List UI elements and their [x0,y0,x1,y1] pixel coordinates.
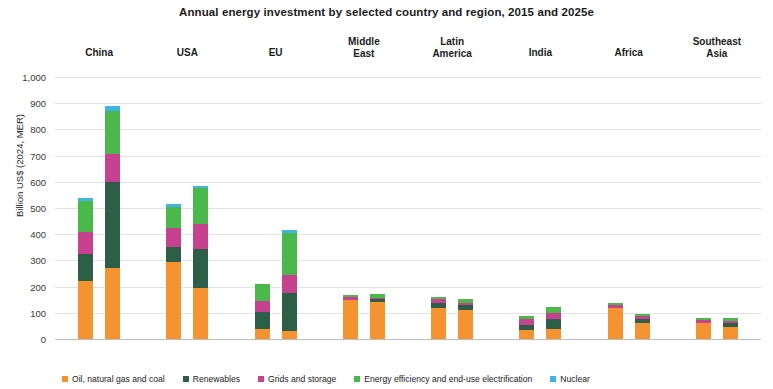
bar-segment-oil-natural-gas-and-coal [166,262,181,339]
gridline [55,208,761,209]
bar-segment-grids-and-storage [78,232,93,254]
group-label-china: China [54,47,144,59]
bar-segment-oil-natural-gas-and-coal [343,300,358,339]
gridline [55,182,761,183]
bar-usa-2025e[interactable] [193,186,208,339]
legend-label: Nuclear [560,374,590,384]
bar-segment-oil-natural-gas-and-coal [255,329,270,339]
bar-segment-grids-and-storage [282,275,297,293]
y-axis-tick-label: 400 [30,229,46,240]
bar-china-2015[interactable] [78,198,93,339]
group-label-usa: USA [142,47,232,59]
group-label-middle-east: MiddleEast [319,36,409,59]
y-axis-tick-label: 700 [30,150,46,161]
gridline [55,103,761,104]
bar-segment-renewables [166,247,181,261]
legend-item-renewables[interactable]: Renewables [183,374,240,384]
gridline [55,156,761,157]
y-axis-tick-label: 0 [41,334,46,345]
bar-segment-renewables [105,182,120,268]
gridline [55,77,761,78]
bar-segment-renewables [255,312,270,329]
group-label-latin-america: LatinAmerica [407,36,497,59]
bar-segment-renewables [193,249,208,288]
bar-usa-2015[interactable] [166,204,181,339]
bar-segment-oil-natural-gas-and-coal [282,331,297,339]
bar-segment-energy-efficiency-and-end-use-electrification [255,284,270,301]
gridline [55,260,761,261]
bar-segment-oil-natural-gas-and-coal [723,327,738,339]
legend-swatch-icon [354,376,360,382]
legend-swatch-icon [183,376,189,382]
legend-swatch-icon [550,376,556,382]
bar-latin-america-2025e[interactable] [458,299,473,339]
plot-area: 20152025e20152025e20152025e20152025e2015… [55,77,761,339]
bar-segment-oil-natural-gas-and-coal [370,302,385,339]
bar-eu-2015[interactable] [255,284,270,339]
bar-southeast-asia-2015[interactable] [696,318,711,339]
bar-segment-oil-natural-gas-and-coal [78,281,93,339]
bar-segment-energy-efficiency-and-end-use-electrification [193,188,208,224]
group-label-africa: Africa [584,47,674,59]
bar-segment-grids-and-storage [193,224,208,249]
bar-segment-oil-natural-gas-and-coal [696,323,711,339]
group-header-row: ChinaUSAEUMiddleEastLatinAmericaIndiaAfr… [55,36,761,68]
legend-item-nuclear[interactable]: Nuclear [550,374,590,384]
bar-segment-energy-efficiency-and-end-use-electrification [78,201,93,231]
bar-eu-2025e[interactable] [282,230,297,339]
bar-segment-oil-natural-gas-and-coal [608,308,623,339]
y-axis-tick-labels: 01002003004005006007008009001,000 [0,77,52,339]
legend-swatch-icon [258,376,264,382]
bar-segment-oil-natural-gas-and-coal [635,323,650,339]
bar-southeast-asia-2025e[interactable] [723,318,738,339]
y-axis-tick-label: 500 [30,203,46,214]
bar-segment-oil-natural-gas-and-coal [519,330,534,339]
bar-segment-oil-natural-gas-and-coal [105,268,120,339]
bar-middle-east-2025e[interactable] [370,294,385,339]
bar-segment-oil-natural-gas-and-coal [193,288,208,339]
bar-segment-oil-natural-gas-and-coal [546,329,561,339]
bar-segment-oil-natural-gas-and-coal [431,308,446,339]
bar-india-2015[interactable] [519,316,534,339]
legend-label: Oil, natural gas and coal [72,374,165,384]
y-axis-tick-label: 900 [30,98,46,109]
legend-item-energy-efficiency-and-end-use-electrification[interactable]: Energy efficiency and end-use electrific… [354,374,532,384]
bar-segment-grids-and-storage [255,301,270,311]
legend-label: Grids and storage [268,374,336,384]
group-label-southeast-asia: SoutheastAsia [672,36,762,59]
bar-africa-2015[interactable] [608,303,623,339]
bar-segment-renewables [546,319,561,328]
legend-label: Energy efficiency and end-use electrific… [364,374,532,384]
bar-segment-oil-natural-gas-and-coal [458,310,473,339]
bar-middle-east-2015[interactable] [343,295,358,339]
legend-item-oil-natural-gas-and-coal[interactable]: Oil, natural gas and coal [62,374,165,384]
gridline [55,129,761,130]
bar-segment-energy-efficiency-and-end-use-electrification [105,111,120,154]
y-axis-tick-label: 200 [30,281,46,292]
gridline [55,287,761,288]
bar-segment-renewables [78,254,93,282]
gridline [55,339,761,340]
y-axis-tick-label: 1,000 [22,72,46,83]
bar-africa-2025e[interactable] [635,314,650,339]
y-axis-tick-label: 300 [30,255,46,266]
legend-label: Renewables [193,374,240,384]
bar-china-2025e[interactable] [105,106,120,339]
y-axis-tick-label: 800 [30,124,46,135]
bar-segment-renewables [282,293,297,331]
bar-segment-energy-efficiency-and-end-use-electrification [166,207,181,228]
chart-title: Annual energy investment by selected cou… [0,6,773,18]
bar-segment-energy-efficiency-and-end-use-electrification [282,233,297,275]
bar-latin-america-2015[interactable] [431,297,446,339]
group-label-eu: EU [231,47,321,59]
bar-segment-grids-and-storage [166,228,181,248]
chart-legend: Oil, natural gas and coalRenewablesGrids… [62,372,768,386]
legend-swatch-icon [62,376,68,382]
gridline [55,313,761,314]
y-axis-tick-label: 100 [30,307,46,318]
group-label-india: India [495,47,585,59]
bar-india-2025e[interactable] [546,307,561,339]
chart-container: Annual energy investment by selected cou… [0,0,773,389]
legend-item-grids-and-storage[interactable]: Grids and storage [258,374,336,384]
bar-segment-grids-and-storage [105,154,120,182]
